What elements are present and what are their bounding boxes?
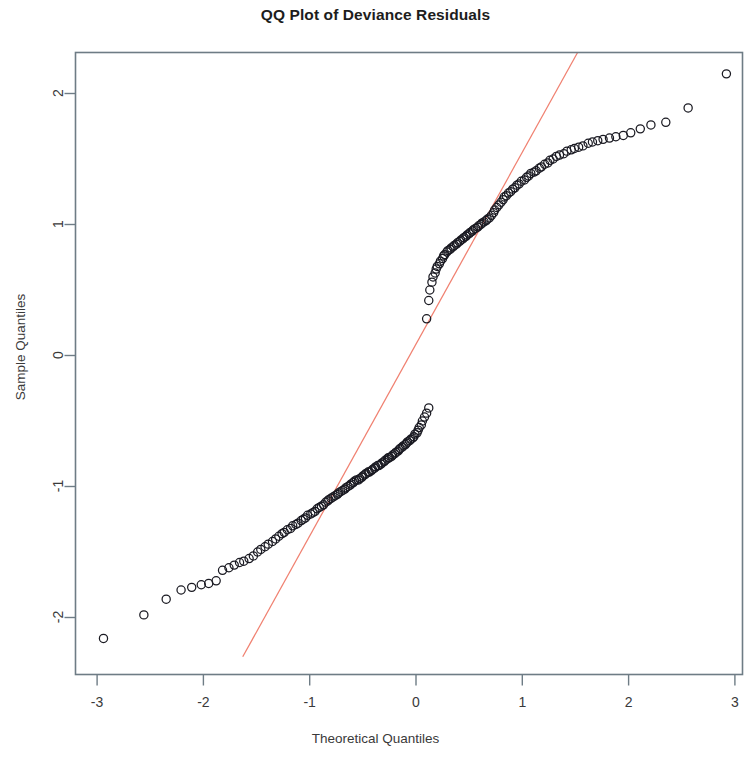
data-point — [426, 286, 434, 294]
plot-canvas — [0, 0, 751, 757]
x-tick-label: 0 — [412, 694, 420, 710]
y-tick-label: 1 — [50, 199, 66, 249]
y-tick-label: -2 — [50, 592, 66, 642]
axis-tick-marks — [65, 94, 735, 686]
data-point — [425, 296, 433, 304]
x-tick-label: 2 — [625, 694, 633, 710]
y-tick-label: 2 — [50, 68, 66, 118]
data-point — [684, 104, 692, 112]
x-tick-label: -1 — [303, 694, 315, 710]
y-tick-label: -1 — [50, 461, 66, 511]
data-point — [177, 586, 185, 594]
data-point — [722, 70, 730, 78]
x-tick-label: -3 — [91, 694, 103, 710]
data-point — [188, 583, 196, 591]
data-point — [627, 129, 635, 137]
data-point — [495, 201, 503, 209]
y-tick-label: 0 — [50, 330, 66, 380]
qq-plot-figure: QQ Plot of Deviance Residuals -3-2-10123… — [0, 0, 751, 757]
data-point — [212, 577, 220, 585]
data-point — [647, 121, 655, 129]
x-axis-label: Theoretical Quantiles — [0, 731, 751, 746]
data-point — [162, 595, 170, 603]
data-point — [425, 404, 433, 412]
data-point — [636, 125, 644, 133]
data-point — [197, 581, 205, 589]
data-point — [594, 137, 602, 145]
reference-line — [243, 53, 578, 657]
data-point — [140, 611, 148, 619]
x-tick-label: -2 — [197, 694, 209, 710]
data-point — [99, 634, 107, 642]
plot-box-border — [76, 53, 743, 675]
x-tick-label: 3 — [731, 694, 739, 710]
y-axis-label-wrapper: Sample Quantiles — [11, 227, 29, 467]
y-axis-label: Sample Quantiles — [13, 294, 28, 401]
data-point — [662, 118, 670, 126]
page-title: QQ Plot of Deviance Residuals — [0, 6, 751, 24]
qq-reference-line — [243, 53, 578, 657]
x-tick-label: 1 — [518, 694, 526, 710]
plot-frame — [76, 53, 743, 675]
scatter-points — [99, 70, 730, 643]
